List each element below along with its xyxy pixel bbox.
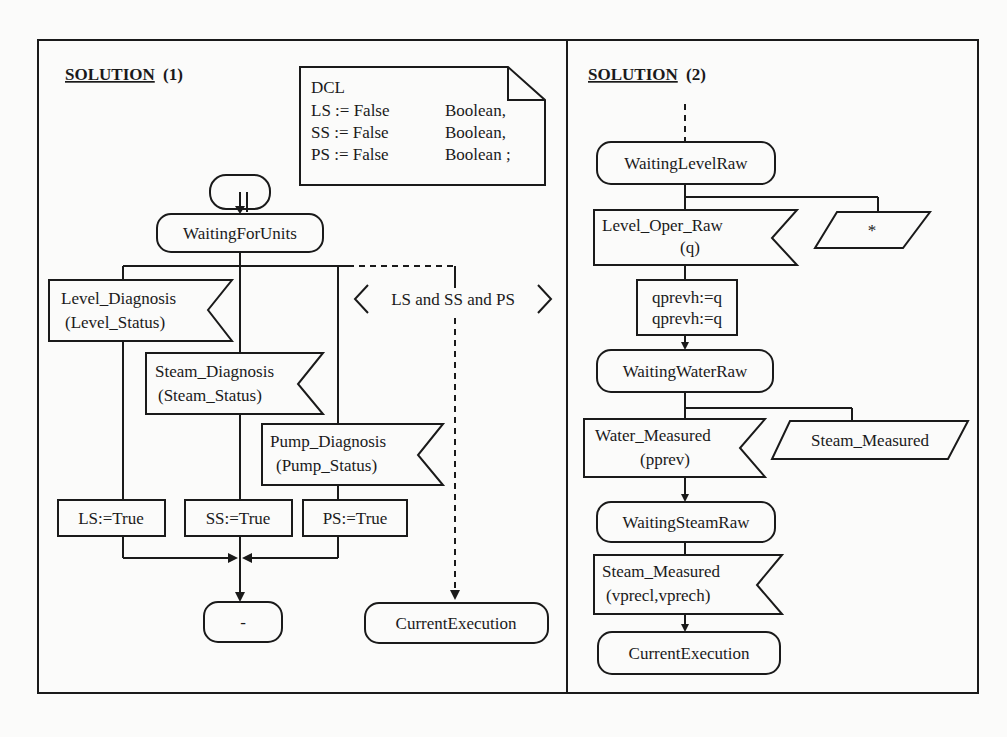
dcl-var-ls: LS := False	[311, 101, 390, 120]
dcl-type-ps: Boolean ;	[445, 145, 511, 164]
svg-text:Pump_Diagnosis: Pump_Diagnosis	[270, 432, 386, 451]
arrow-left-icon	[242, 553, 252, 563]
svg-text:Level_Oper_Raw: Level_Oper_Raw	[602, 216, 724, 235]
svg-text:(Level_Status): (Level_Status)	[65, 313, 165, 332]
svg-text:SS:=True: SS:=True	[206, 509, 271, 528]
dcl-type-ss: Boolean,	[445, 123, 506, 142]
panel-solution-1: SOLUTION (1) DCL LS := False Boolean, SS…	[49, 65, 551, 643]
svg-text:LS and SS and PS: LS and SS and PS	[391, 290, 515, 309]
declaration-note: DCL LS := False Boolean, SS := False Boo…	[300, 67, 545, 185]
panel-solution-2: SOLUTION (2) WaitingLevelRaw Level_Oper_…	[584, 65, 968, 674]
svg-text:Steam_Measured: Steam_Measured	[811, 431, 930, 450]
svg-text:Steam_Measured: Steam_Measured	[602, 562, 721, 581]
arrow-down-icon	[681, 494, 689, 502]
svg-text:qprevh:=q: qprevh:=q	[652, 288, 723, 307]
dcl-type-ls: Boolean,	[445, 101, 506, 120]
svg-text:(pprev): (pprev)	[640, 450, 690, 469]
svg-text:WaitingSteamRaw: WaitingSteamRaw	[622, 513, 750, 532]
continuous-signal: LS and SS and PS	[355, 285, 551, 313]
svg-text:PS:=True: PS:=True	[323, 509, 388, 528]
svg-text:Water_Measured: Water_Measured	[595, 426, 711, 445]
svg-text:(Steam_Status): (Steam_Status)	[158, 386, 262, 405]
dcl-header: DCL	[311, 78, 345, 97]
dcl-var-ss: SS := False	[311, 123, 389, 142]
arrow-down-icon	[450, 590, 460, 600]
svg-text:Steam_Diagnosis: Steam_Diagnosis	[155, 362, 274, 381]
arrow-down-icon	[235, 592, 245, 602]
svg-text:*: *	[868, 221, 877, 240]
svg-text:(vprecl,vprech): (vprecl,vprech)	[606, 586, 710, 605]
sdl-diagram: SOLUTION (1) DCL LS := False Boolean, SS…	[0, 0, 1007, 737]
svg-text:Level_Diagnosis: Level_Diagnosis	[61, 289, 176, 308]
svg-text:-: -	[240, 613, 246, 632]
panel-1-title: SOLUTION (1)	[65, 65, 183, 84]
svg-text:WaitingForUnits: WaitingForUnits	[183, 224, 297, 243]
arrow-right-icon	[228, 553, 238, 563]
svg-text:CurrentExecution: CurrentExecution	[629, 644, 750, 663]
svg-text:qprevh:=q: qprevh:=q	[652, 309, 723, 328]
svg-text:LS:=True: LS:=True	[78, 509, 144, 528]
arrow-down-icon	[681, 342, 689, 350]
svg-text:(Pump_Status): (Pump_Status)	[276, 456, 377, 475]
svg-text:WaitingLevelRaw: WaitingLevelRaw	[624, 154, 748, 173]
svg-text:(q): (q)	[680, 238, 700, 257]
svg-text:CurrentExecution: CurrentExecution	[396, 614, 517, 633]
dcl-var-ps: PS := False	[311, 145, 389, 164]
panel-2-title: SOLUTION (2)	[588, 65, 706, 84]
arrow-down-icon	[681, 624, 689, 632]
svg-text:WaitingWaterRaw: WaitingWaterRaw	[623, 362, 748, 381]
